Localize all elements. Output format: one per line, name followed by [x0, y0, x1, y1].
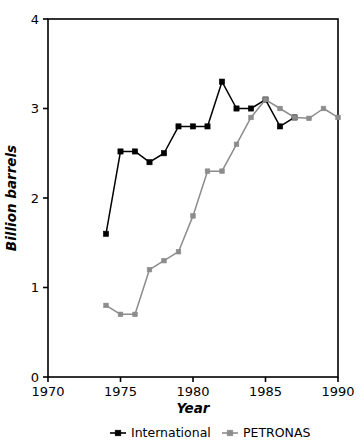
series-marker — [234, 106, 239, 111]
legend-marker-swatch — [115, 430, 121, 436]
y-axis-tick-label: 1 — [31, 280, 39, 295]
series-marker — [219, 79, 224, 84]
series-marker — [220, 169, 225, 174]
y-axis-tick-label: 4 — [31, 12, 39, 27]
x-axis-tick-label: 1975 — [104, 384, 137, 399]
series-marker — [118, 149, 123, 154]
series-marker — [205, 169, 210, 174]
series-marker — [162, 258, 167, 263]
y-axis-title: Billion barrels — [3, 145, 19, 251]
series-marker — [132, 149, 137, 154]
series-marker — [263, 97, 268, 102]
series-marker — [205, 124, 210, 129]
x-axis-tick-label: 1990 — [321, 384, 354, 399]
chart-legend: InternationalPETRONAS — [110, 425, 310, 440]
x-axis-title: Year — [177, 400, 211, 416]
series-marker — [103, 231, 108, 236]
series-marker — [248, 106, 253, 111]
legend-item-international[interactable]: International — [110, 425, 211, 440]
series-marker — [336, 115, 341, 120]
series-marker — [277, 124, 282, 129]
series-marker — [147, 160, 152, 165]
y-axis-tick-label: 2 — [31, 191, 39, 206]
x-axis-tick-label: 1985 — [249, 384, 282, 399]
x-axis-tick-label: 1980 — [176, 384, 209, 399]
series-marker — [176, 124, 181, 129]
series-marker — [249, 115, 254, 120]
legend-label: PETRONAS — [243, 425, 310, 440]
series-marker — [292, 115, 297, 120]
series-marker — [104, 303, 109, 308]
series-marker — [147, 267, 152, 272]
legend-item-petronas[interactable]: PETRONAS — [222, 425, 310, 440]
series-marker — [118, 312, 123, 317]
series-marker — [133, 312, 138, 317]
series-marker — [161, 151, 166, 156]
legend-label: International — [131, 425, 211, 440]
series-marker — [234, 142, 239, 147]
series-marker — [307, 116, 312, 121]
series-marker — [190, 124, 195, 129]
y-axis-tick-label: 3 — [31, 101, 39, 116]
series-marker — [278, 106, 283, 111]
series-marker — [176, 249, 181, 254]
chart-figure: 0123419701975198019851990YearBillion bar… — [0, 0, 364, 446]
series-marker — [191, 214, 196, 219]
plot-frame — [48, 19, 338, 377]
y-axis-tick-label: 0 — [31, 370, 39, 385]
x-axis-tick-label: 1970 — [31, 384, 64, 399]
series-marker — [321, 106, 326, 111]
legend-marker-swatch — [227, 430, 233, 436]
line-chart: 0123419701975198019851990YearBillion bar… — [0, 0, 364, 446]
